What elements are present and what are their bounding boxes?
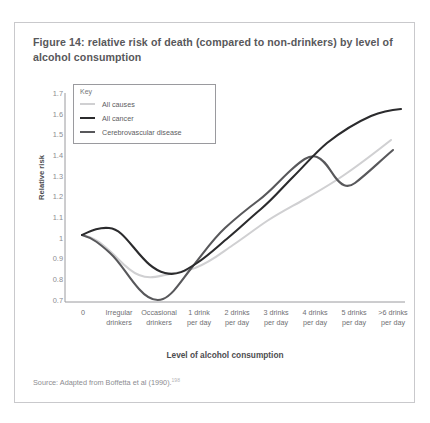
- x-tick-1: Irregular drinkers: [99, 308, 139, 327]
- x-axis-title: Level of alcohol consumption: [65, 350, 385, 360]
- x-tick-8: >6 drinks per day: [372, 308, 414, 327]
- figure-container: Figure 14: relative risk of death (compa…: [14, 22, 415, 403]
- x-tick-0: 0: [67, 308, 99, 318]
- source-note-text: Source: Adapted from Boffetta et al (199…: [33, 378, 172, 387]
- x-tick-5: 3 drinks per day: [256, 308, 296, 327]
- x-tick-6: 4 drinks per day: [295, 308, 335, 327]
- legend-title: Key: [80, 88, 215, 95]
- x-tick-7: 5 drinks per day: [334, 308, 374, 327]
- x-tick-4: 2 drinks per day: [217, 308, 257, 327]
- chart-legend: Key All causes All cancer Cerebrovascula…: [73, 84, 216, 144]
- chart-plot-area: 1.7 1.6 1.5 1.4 1.3 1.2 1.1 1 0.9 0.8 0.…: [15, 23, 416, 404]
- legend-item-all-cancer: All cancer: [80, 111, 215, 125]
- legend-swatch-all-cancer: [80, 117, 95, 119]
- legend-label-all-causes: All causes: [102, 100, 135, 109]
- legend-label-cerebrovascular: Cerebrovascular disease: [102, 128, 182, 137]
- x-tick-3: 1 drink per day: [180, 308, 218, 327]
- legend-item-all-causes: All causes: [80, 97, 215, 111]
- series-line-all-causes: [82, 140, 391, 277]
- source-footnote-marker: 198: [172, 377, 180, 383]
- legend-label-all-cancer: All cancer: [102, 114, 134, 123]
- legend-swatch-cerebrovascular: [80, 131, 95, 133]
- legend-swatch-all-causes: [80, 103, 95, 105]
- legend-item-cerebrovascular: Cerebrovascular disease: [80, 125, 215, 139]
- source-note: Source: Adapted from Boffetta et al (199…: [33, 377, 180, 387]
- x-tick-2: Occasional drinkers: [137, 308, 181, 327]
- chart-svg: [15, 23, 416, 404]
